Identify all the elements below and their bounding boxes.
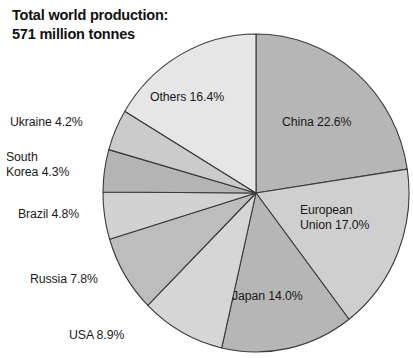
slice-label-japan: Japan 14.0% <box>232 289 303 304</box>
slice-label-european-union: European Union 17.0% <box>300 203 369 232</box>
slice-label-south-korea: South Korea 4.3% <box>6 150 69 179</box>
slice-label-brazil: Brazil 4.8% <box>18 207 79 222</box>
slice-label-china: China 22.6% <box>282 115 351 130</box>
pie-chart-graphic <box>0 0 413 358</box>
slice-label-usa: USA 8.9% <box>69 328 124 343</box>
pie-slice-china <box>256 34 407 193</box>
pie-chart-figure: Total world production: 571 million tonn… <box>0 0 413 358</box>
slice-label-others: Others 16.4% <box>150 90 224 105</box>
slice-label-russia: Russia 7.8% <box>30 272 98 287</box>
pie-slice-group <box>103 34 409 352</box>
slice-label-ukraine: Ukraine 4.2% <box>10 115 83 130</box>
